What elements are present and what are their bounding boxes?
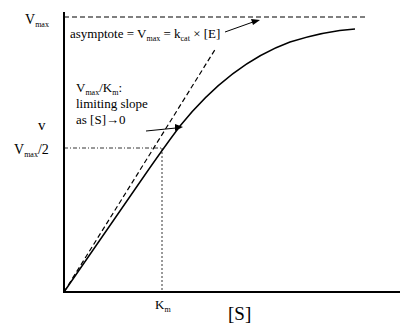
slope-annotation-line3: as [S]→0 [76,113,125,126]
vmax-tick-label: Vmax [25,13,49,29]
v-axis-label: v [38,118,46,133]
arrow-head-icon [175,124,183,131]
half-vmax-tick-label: Vmax/2 [14,143,49,159]
asymptote-annotation: asymptote = Vmax = kcat × [E] [70,27,220,43]
slope-annotation-line2: limiting slope [76,97,148,110]
michaelis-menten-plot [0,0,406,330]
asymptote-arrow [225,22,253,32]
km-tick-label: Km [155,298,171,314]
s-axis-label: [S] [228,304,251,323]
slope-arrow [146,128,176,131]
arrow-head-icon [251,19,260,25]
saturation-curve [64,29,355,292]
slope-annotation-line1: Vmax/Km: [76,81,122,97]
